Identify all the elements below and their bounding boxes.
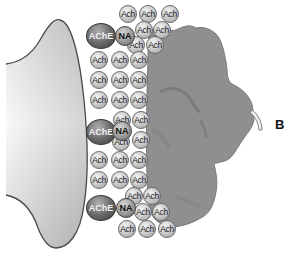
acetylcholine-molecule: Ach: [130, 51, 148, 69]
synapse-diagram: AchAchAchAchAchAchAchAchAchAchAchAchAchA…: [0, 0, 286, 266]
presynaptic-terminal: [6, 20, 87, 248]
acetylcholine-molecule: Ach: [132, 131, 150, 149]
acetylcholine-molecule: Ach: [118, 220, 136, 238]
panel-label: B: [275, 117, 284, 132]
acetylcholine-molecule: Ach: [130, 151, 148, 169]
acetylcholine-molecule: Ach: [119, 5, 137, 23]
na-molecule: NA: [115, 26, 135, 46]
acetylcholine-molecule: Ach: [132, 111, 150, 129]
acetylcholine-molecule: Ach: [90, 91, 108, 109]
acetylcholine-molecule: Ach: [111, 171, 129, 189]
acetylcholine-molecule: Ach: [146, 36, 164, 54]
na-molecule: NA: [116, 198, 136, 218]
acetylcholine-molecule: Ach: [111, 51, 129, 69]
acetylcholine-molecule: Ach: [152, 203, 170, 221]
acetylcholinesterase-molecule: AChE: [86, 195, 116, 221]
acetylcholine-molecule: Ach: [130, 71, 148, 89]
acetylcholine-molecule: Ach: [90, 51, 108, 69]
acetylcholine-molecule: Ach: [111, 71, 129, 89]
na-molecule: NA: [112, 121, 132, 141]
acetylcholine-molecule: Ach: [134, 203, 152, 221]
acetylcholine-molecule: Ach: [111, 91, 129, 109]
acetylcholine-molecule: Ach: [138, 220, 156, 238]
acetylcholine-molecule: Ach: [130, 91, 148, 109]
acetylcholinesterase-molecule: AChE: [86, 23, 116, 49]
acetylcholine-molecule: Ach: [90, 151, 108, 169]
acetylcholine-molecule: Ach: [90, 71, 108, 89]
acetylcholine-molecule: Ach: [111, 151, 129, 169]
acetylcholine-molecule: Ach: [158, 220, 176, 238]
receptor-protein: [147, 26, 263, 227]
acetylcholine-molecule: Ach: [90, 171, 108, 189]
